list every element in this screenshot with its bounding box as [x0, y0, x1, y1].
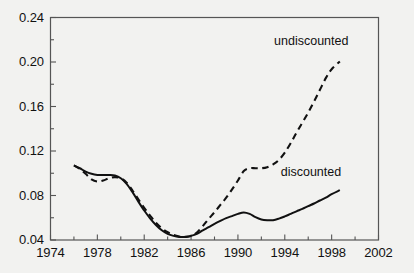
- x-axis-ticks: [51, 235, 379, 241]
- y-tick-label: 0.12: [6, 143, 44, 158]
- x-tick-label: 1978: [71, 245, 123, 260]
- chart-plot-area: [0, 0, 414, 273]
- x-tick-label: 1994: [259, 245, 311, 260]
- x-tick-label: 1974: [25, 245, 77, 260]
- plot-frame: [51, 18, 379, 241]
- series-label-discounted: discounted: [281, 165, 341, 179]
- x-tick-label: 1998: [306, 245, 358, 260]
- x-tick-label: 1986: [165, 245, 217, 260]
- y-axis-ticks: [51, 18, 57, 241]
- series-label-undiscounted: undiscounted: [274, 34, 348, 48]
- y-tick-label: 0.20: [6, 54, 44, 69]
- x-tick-label: 1990: [212, 245, 264, 260]
- y-tick-label: 0.24: [6, 10, 44, 25]
- y-tick-label: 0.08: [6, 188, 44, 203]
- y-tick-label: 0.16: [6, 99, 44, 114]
- chart-figure: 0.040.080.120.160.200.24 197419781982198…: [0, 0, 414, 273]
- x-tick-label: 1982: [118, 245, 170, 260]
- data-series-group: [74, 61, 340, 237]
- x-tick-label: 2002: [353, 245, 405, 260]
